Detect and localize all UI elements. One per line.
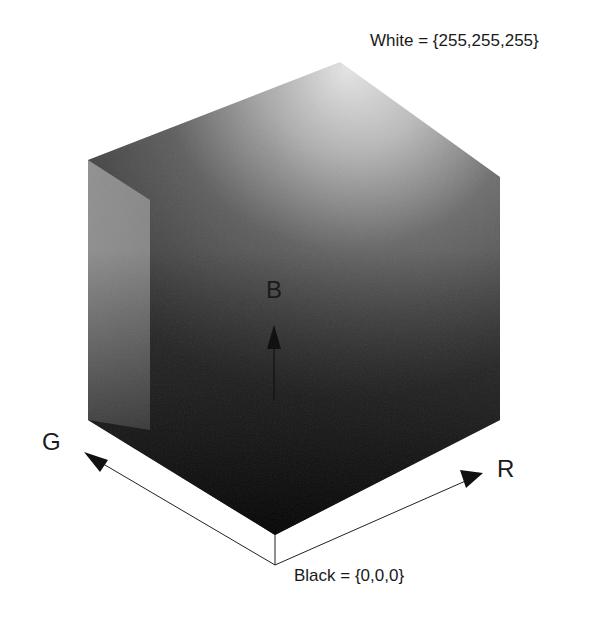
rgb-cube-diagram: White = {255,255,255} Black = {0,0,0} B … xyxy=(0,0,601,624)
g-axis-label: G xyxy=(42,428,61,456)
white-corner-label: White = {255,255,255} xyxy=(370,31,539,51)
cube-body xyxy=(80,55,510,545)
b-axis-label: B xyxy=(266,276,282,304)
black-corner-label: Black = {0,0,0} xyxy=(294,566,404,586)
r-axis-label: R xyxy=(497,455,514,483)
cube-graphic xyxy=(0,0,601,624)
r-arrow-icon xyxy=(460,470,483,488)
g-arrow-icon xyxy=(84,452,108,472)
